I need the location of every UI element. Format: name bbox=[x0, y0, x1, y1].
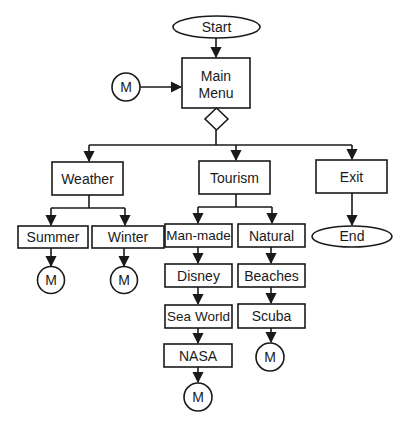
node-label-line2: Menu bbox=[198, 85, 233, 101]
node-label-line1: Main bbox=[201, 68, 231, 84]
node-beaches[interactable]: Beaches bbox=[238, 264, 305, 287]
node-label: Scuba bbox=[252, 308, 292, 324]
node-end[interactable]: End bbox=[312, 226, 392, 247]
node-label: NASA bbox=[179, 348, 218, 364]
node-label: Disney bbox=[177, 268, 220, 284]
node-label: Start bbox=[202, 19, 232, 35]
node-exit[interactable]: Exit bbox=[316, 160, 387, 193]
node-main-menu[interactable]: Main Menu bbox=[182, 58, 250, 108]
connector-label: M bbox=[192, 389, 204, 405]
node-connector-scuba[interactable]: M bbox=[256, 343, 284, 371]
node-man-made[interactable]: Man-made bbox=[165, 224, 232, 247]
node-scuba[interactable]: Scuba bbox=[238, 304, 305, 328]
node-label: Exit bbox=[340, 169, 363, 185]
node-label: Weather bbox=[61, 171, 114, 187]
node-label: Winter bbox=[108, 229, 149, 245]
decision-diamond-shape bbox=[205, 108, 228, 130]
node-tourism[interactable]: Tourism bbox=[199, 161, 270, 194]
node-label: Tourism bbox=[210, 170, 259, 186]
node-sea-world[interactable]: Sea World bbox=[165, 305, 232, 328]
node-natural[interactable]: Natural bbox=[238, 224, 305, 247]
node-nasa[interactable]: NASA bbox=[164, 344, 232, 367]
node-decision[interactable] bbox=[205, 108, 228, 130]
connector-label: M bbox=[120, 79, 132, 95]
node-disney[interactable]: Disney bbox=[165, 264, 232, 287]
node-label: Man-made bbox=[166, 228, 231, 243]
node-label: Natural bbox=[249, 228, 294, 244]
node-summer[interactable]: Summer bbox=[18, 226, 88, 248]
node-connector-winter[interactable]: M bbox=[111, 267, 138, 294]
node-connector-nasa[interactable]: M bbox=[184, 383, 212, 411]
node-connector-main[interactable]: M bbox=[112, 73, 140, 101]
node-label: Sea World bbox=[167, 309, 230, 324]
node-connector-summer[interactable]: M bbox=[38, 267, 65, 294]
connector-label: M bbox=[118, 272, 130, 288]
connector-label: M bbox=[45, 272, 57, 288]
connector-label: M bbox=[264, 349, 276, 365]
node-label: Beaches bbox=[244, 268, 298, 284]
node-weather[interactable]: Weather bbox=[52, 162, 123, 195]
node-label: Summer bbox=[27, 229, 80, 245]
node-label: End bbox=[340, 228, 365, 244]
flowchart-canvas: Start Main Menu M Weather Tourism Exit S… bbox=[0, 0, 408, 426]
node-start[interactable]: Start bbox=[173, 16, 260, 38]
node-winter[interactable]: Winter bbox=[92, 226, 164, 248]
